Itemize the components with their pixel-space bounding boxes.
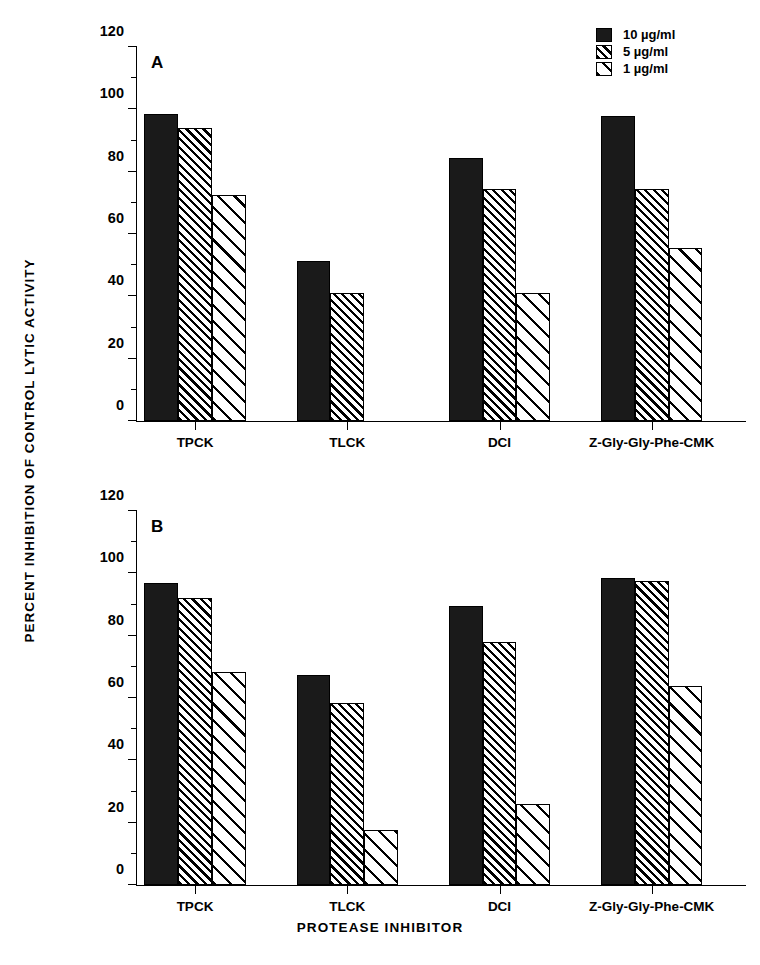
y-tick-label: 100 — [100, 85, 124, 101]
y-tick-major — [128, 420, 137, 421]
bar — [178, 598, 212, 885]
y-tick-major — [128, 108, 137, 109]
y-tick-label: 20 — [108, 799, 124, 815]
y-tick-minor — [131, 791, 137, 792]
y-tick-major — [128, 510, 137, 511]
bar — [601, 116, 635, 421]
y-tick-label: 60 — [108, 674, 124, 690]
y-tick-major — [128, 358, 137, 359]
bar — [449, 158, 483, 421]
x-tick — [652, 421, 653, 430]
y-tick-major — [128, 822, 137, 823]
legend-label: 10 µg/ml — [623, 27, 675, 42]
x-axis-title: PROTEASE INHIBITOR — [0, 920, 760, 935]
y-tick-major — [128, 46, 137, 47]
x-tick-label: DCI — [488, 435, 511, 450]
y-tick-minor — [131, 541, 137, 542]
y-tick-label: 120 — [100, 487, 124, 503]
legend-item: 10 µg/ml — [596, 27, 675, 42]
y-tick-major — [128, 233, 137, 234]
x-tick-label: TPCK — [177, 435, 214, 450]
y-tick-major — [128, 572, 137, 573]
x-tick — [195, 421, 196, 430]
y-tick-major — [128, 759, 137, 760]
x-tick-label: Z-Gly-Gly-Phe-CMK — [589, 899, 714, 914]
y-tick-label: 60 — [108, 210, 124, 226]
bar — [297, 261, 331, 422]
bar — [601, 578, 635, 885]
y-tick-major — [128, 635, 137, 636]
y-tick-label: 80 — [108, 148, 124, 164]
bar — [516, 804, 550, 885]
y-tick-label: 40 — [108, 736, 124, 752]
x-tick — [652, 885, 653, 894]
x-tick-label: Z-Gly-Gly-Phe-CMK — [589, 435, 714, 450]
bar — [212, 672, 246, 885]
x-tick-label: DCI — [488, 899, 511, 914]
y-tick-minor — [131, 853, 137, 854]
bar — [364, 830, 398, 885]
y-tick-label: 0 — [116, 861, 124, 877]
bar — [144, 583, 178, 885]
bar — [330, 293, 364, 421]
bar — [483, 642, 517, 885]
x-tick — [195, 885, 196, 894]
bar — [330, 703, 364, 885]
y-tick-minor — [131, 666, 137, 667]
bar — [178, 128, 212, 421]
bar — [635, 581, 669, 885]
bar — [516, 293, 550, 421]
y-axis-title: PERCENT INHIBITION OF CONTROL LYTIC ACTI… — [22, 258, 37, 642]
bar — [212, 195, 246, 421]
y-tick-minor — [131, 140, 137, 141]
y-tick-label: 0 — [116, 397, 124, 413]
y-tick-major — [128, 295, 137, 296]
bar — [144, 114, 178, 421]
y-tick-major — [128, 884, 137, 885]
plot-area: A020406080100120TPCKTLCKDCIZ-Gly-Gly-Phe… — [136, 47, 746, 422]
y-tick-minor — [131, 604, 137, 605]
chart-panel-b: B020406080100120TPCKTLCKDCIZ-Gly-Gly-Phe… — [136, 511, 746, 886]
legend-swatch-solid — [596, 28, 612, 42]
x-tick — [347, 421, 348, 430]
y-tick-label: 120 — [100, 23, 124, 39]
y-tick-minor — [131, 264, 137, 265]
x-tick-label: TLCK — [329, 899, 365, 914]
bar — [297, 675, 331, 885]
x-tick — [347, 885, 348, 894]
y-tick-major — [128, 171, 137, 172]
y-tick-minor — [131, 202, 137, 203]
y-tick-label: 80 — [108, 612, 124, 628]
y-tick-major — [128, 697, 137, 698]
bar — [669, 686, 703, 885]
chart-panel-a: A020406080100120TPCKTLCKDCIZ-Gly-Gly-Phe… — [136, 47, 746, 422]
y-tick-minor — [131, 327, 137, 328]
plot-area: B020406080100120TPCKTLCKDCIZ-Gly-Gly-Phe… — [136, 511, 746, 886]
bar — [449, 606, 483, 885]
panel-letter: B — [151, 517, 163, 537]
x-tick — [500, 885, 501, 894]
y-tick-minor — [131, 728, 137, 729]
x-tick — [500, 421, 501, 430]
x-tick-label: TLCK — [329, 435, 365, 450]
bar — [669, 248, 703, 421]
bar — [635, 189, 669, 421]
panel-letter: A — [151, 53, 163, 73]
x-tick-label: TPCK — [177, 899, 214, 914]
y-axis-title-container: PERCENT INHIBITION OF CONTROL LYTIC ACTI… — [0, 0, 58, 900]
y-tick-label: 100 — [100, 549, 124, 565]
y-tick-minor — [131, 389, 137, 390]
y-tick-label: 40 — [108, 272, 124, 288]
y-tick-minor — [131, 77, 137, 78]
bar — [483, 189, 517, 421]
y-tick-label: 20 — [108, 335, 124, 351]
